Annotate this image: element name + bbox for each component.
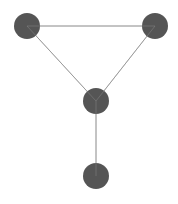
nodes-layer — [14, 13, 168, 189]
graph-diagram — [0, 0, 178, 204]
edge-overlay-n2-n3 — [96, 26, 155, 101]
edge-overlay-n1-n3 — [27, 26, 96, 101]
